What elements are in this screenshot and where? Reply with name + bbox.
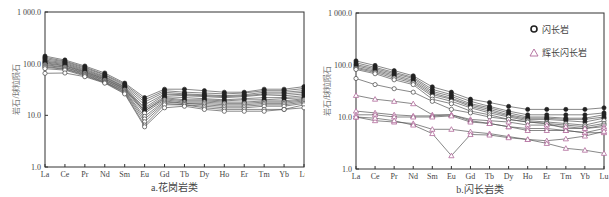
x-tick-label: Pr bbox=[391, 172, 398, 181]
x-tick-label: Gd bbox=[466, 172, 476, 181]
x-tick-label: Ce bbox=[371, 172, 380, 181]
open-circle-marker bbox=[182, 104, 186, 108]
triangle-marker bbox=[353, 93, 358, 98]
open-circle-marker bbox=[123, 92, 127, 96]
open-circle-marker bbox=[282, 107, 286, 111]
open-circle-marker bbox=[43, 71, 47, 75]
x-tick-label: Dy bbox=[199, 170, 209, 179]
open-circle-marker bbox=[63, 71, 67, 75]
legend-circle-icon bbox=[531, 26, 537, 32]
x-tick-label: La bbox=[41, 170, 50, 179]
chart-a-svg: 1.010.0100.01 000.0岩石/球粒陨石LaCePrNdSmEuGd… bbox=[0, 0, 305, 197]
open-circle-marker bbox=[354, 76, 358, 80]
x-tick-label: Tb bbox=[180, 170, 189, 179]
x-tick-label: Er bbox=[240, 170, 248, 179]
chart-b-diorites: 1.010.0100.01 000.0岩石/球粒陨石LaCePrNdSmEuGd… bbox=[305, 0, 609, 197]
y-tick-label: 1 000.0 bbox=[328, 9, 352, 18]
filled-circle-marker bbox=[564, 107, 568, 111]
legend: 闪长岩辉长闪长岩 bbox=[530, 24, 587, 59]
open-circle-marker bbox=[392, 78, 396, 82]
x-tick-label: Yb bbox=[580, 172, 590, 181]
filled-circle-marker bbox=[545, 107, 549, 111]
open-circle-marker bbox=[449, 102, 453, 106]
x-tick-label: Gd bbox=[160, 170, 170, 179]
x-tick-label: Ce bbox=[60, 170, 69, 179]
filled-circle-marker bbox=[507, 104, 511, 108]
y-tick-label: 1 000.0 bbox=[17, 8, 41, 17]
open-circle-marker bbox=[103, 81, 107, 85]
x-tick-label: Lu bbox=[600, 172, 609, 181]
legend-label-gabbro-diorite: 辉长闪长岩 bbox=[542, 47, 587, 58]
x-tick-label: Sm bbox=[427, 172, 438, 181]
chart-a-granites: 1.010.0100.01 000.0岩石/球粒陨石LaCePrNdSmEuGd… bbox=[0, 0, 305, 197]
open-circle-marker bbox=[373, 82, 377, 86]
x-tick-label: Tm bbox=[259, 170, 271, 179]
x-tick-label: Tb bbox=[485, 172, 494, 181]
data-series bbox=[353, 93, 606, 131]
y-axis-label: 岩石/球粒陨石 bbox=[322, 66, 332, 116]
chart-caption: a.花岗岩类 bbox=[151, 181, 198, 193]
x-tick-label: Nd bbox=[408, 172, 418, 181]
legend-label-diorite: 闪长岩 bbox=[542, 24, 569, 35]
open-circle-marker bbox=[430, 99, 434, 103]
y-tick-label: 1.0 bbox=[31, 163, 41, 172]
y-tick-label: 1.0 bbox=[342, 165, 352, 174]
filled-circle-marker bbox=[583, 107, 587, 111]
open-circle-marker bbox=[143, 125, 147, 129]
x-tick-label: Er bbox=[543, 172, 551, 181]
x-tick-label: Eu bbox=[140, 170, 149, 179]
open-circle-marker bbox=[411, 82, 415, 86]
open-circle-marker bbox=[392, 87, 396, 91]
open-circle-marker bbox=[449, 107, 453, 111]
x-tick-label: Eu bbox=[447, 172, 456, 181]
open-circle-marker bbox=[162, 106, 166, 110]
open-circle-marker bbox=[242, 109, 246, 113]
x-tick-label: Pr bbox=[81, 170, 88, 179]
y-tick-label: 10.0 bbox=[27, 111, 41, 120]
chart-b-svg: 1.010.0100.01 000.0岩石/球粒陨石LaCePrNdSmEuGd… bbox=[305, 0, 609, 197]
filled-circle-marker bbox=[526, 107, 530, 111]
open-circle-marker bbox=[83, 75, 87, 79]
x-tick-label: Tm bbox=[560, 172, 572, 181]
y-tick-label: 10.0 bbox=[338, 113, 352, 122]
y-axis-label: 岩石/球粒陨石 bbox=[11, 64, 21, 114]
data-series bbox=[354, 62, 606, 120]
y-tick-label: 100.0 bbox=[334, 61, 352, 70]
x-tick-label: Ho bbox=[523, 172, 533, 181]
open-circle-marker bbox=[411, 90, 415, 94]
open-circle-marker bbox=[468, 111, 472, 115]
x-tick-label: Sm bbox=[119, 170, 130, 179]
open-circle-marker bbox=[43, 67, 47, 71]
open-circle-marker bbox=[202, 107, 206, 111]
filled-circle-marker bbox=[487, 100, 491, 104]
open-circle-marker bbox=[262, 109, 266, 113]
x-tick-label: Yb bbox=[279, 170, 289, 179]
legend-triangle-icon bbox=[530, 49, 538, 56]
x-tick-label: La bbox=[352, 172, 361, 181]
open-circle-marker bbox=[373, 72, 377, 76]
chart-caption: b.闪长岩类 bbox=[456, 183, 504, 195]
filled-circle-marker bbox=[602, 106, 606, 110]
x-tick-label: Nd bbox=[100, 170, 110, 179]
open-circle-marker bbox=[222, 109, 226, 113]
plot-frame bbox=[356, 13, 604, 169]
y-tick-label: 100.0 bbox=[23, 60, 41, 69]
x-tick-label: Dy bbox=[504, 172, 514, 181]
x-tick-label: Ho bbox=[219, 170, 229, 179]
open-circle-marker bbox=[354, 67, 358, 71]
